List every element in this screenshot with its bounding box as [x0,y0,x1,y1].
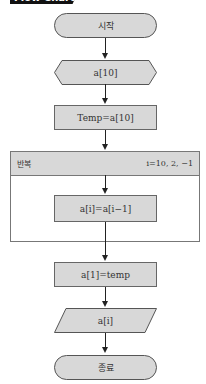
loop-body-label: a[i]=a[i−1] [80,204,131,214]
connector [105,175,106,189]
process-temp-assign: Temp=a[10] [54,105,157,130]
connector [105,38,106,54]
arrow-down-icon [102,188,108,194]
arrow-down-icon [102,347,108,353]
arrow-down-icon [102,255,108,261]
loop-range: i=10, 2, −1 [147,159,194,168]
assign-first-label: a[1]=temp [81,270,130,280]
arrow-down-icon [102,144,108,150]
connector [105,84,106,99]
output-label: a[i] [54,308,157,333]
loop-label: 반복 [17,158,31,169]
loop-header: 반복 i=10, 2, −1 [11,152,199,176]
flow-chart-header-tag: Flow Chart [10,0,78,4]
arrow-down-icon [102,98,108,104]
end-terminal: 종료 [54,355,157,380]
process-assign-first: a[1]=temp [54,262,157,287]
start-terminal: 시작 [54,13,157,38]
connector [105,287,106,302]
end-label: 종료 [98,361,114,374]
connector [105,222,106,256]
connector [105,130,106,145]
arrow-down-icon [102,53,108,59]
prep-label: a[10] [54,60,157,85]
arrow-down-icon [102,301,108,307]
connector [105,333,106,348]
process-loop-body: a[i]=a[i−1] [54,195,157,222]
temp-assign-label: Temp=a[10] [77,113,133,123]
start-label: 시작 [98,19,114,32]
